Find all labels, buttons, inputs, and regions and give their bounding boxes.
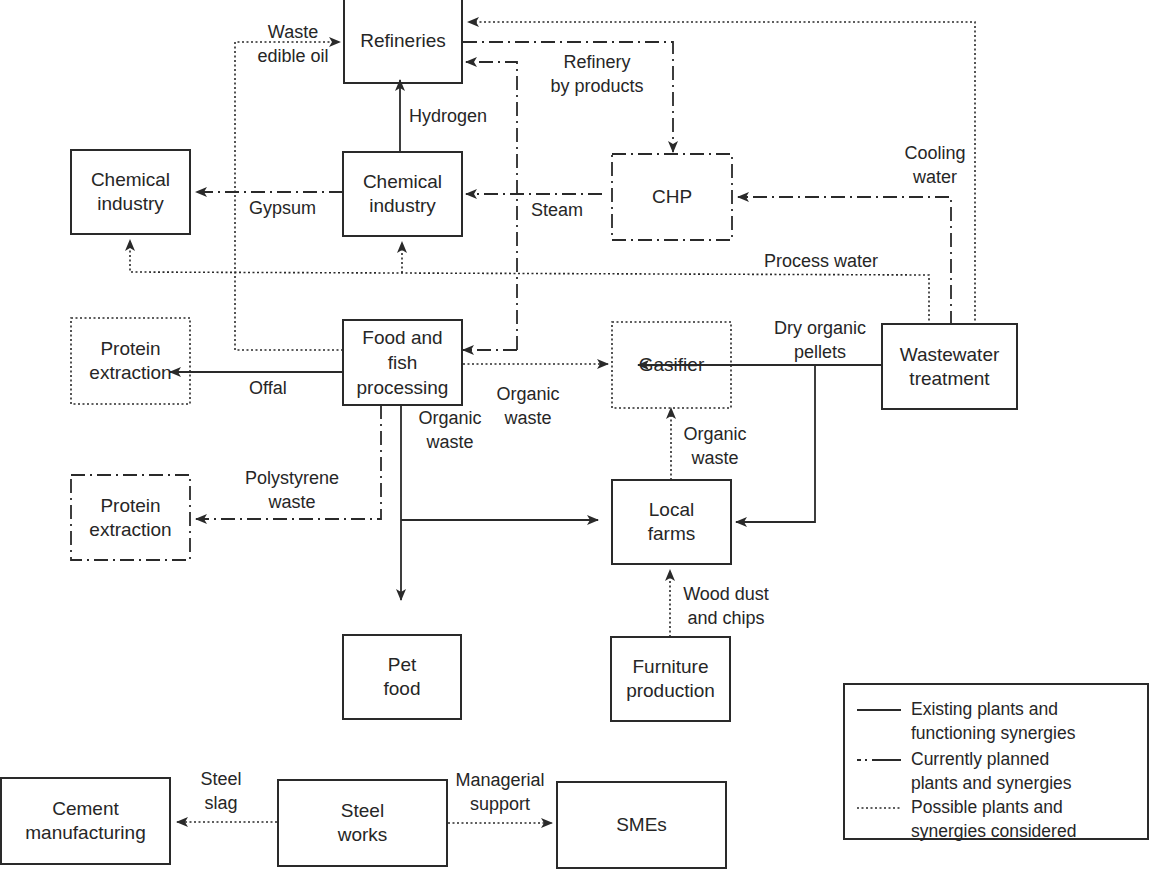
node-local-farms: Localfarms <box>611 479 732 565</box>
flow-label-dry-organic-pellets: Dry organicpellets <box>760 316 880 364</box>
dotted-line-icon <box>857 806 901 810</box>
node-label: Wastewater <box>900 343 1000 367</box>
node-label: SMEs <box>616 813 667 837</box>
planned-flows <box>196 42 951 519</box>
node-label: Food and <box>357 325 449 350</box>
figure-caption-cutoff <box>0 878 700 886</box>
flow-label-farms-organic-waste: Organicwaste <box>675 422 755 470</box>
node-label: extraction <box>89 361 171 385</box>
flow-label-polystyrene-waste: Polystyrenewaste <box>232 466 352 514</box>
node-label: works <box>338 823 388 847</box>
node-gasifier: Gasifier <box>612 322 731 408</box>
node-food-fish-processing: Food andfishprocessing <box>342 319 463 406</box>
node-label: Chemical <box>363 170 442 194</box>
node-label: Cement <box>25 797 145 821</box>
solid-line-icon <box>857 708 901 712</box>
node-refineries: Refineries <box>343 0 463 84</box>
node-pet-food: Petfood <box>342 634 462 720</box>
node-label: Pet <box>384 653 421 677</box>
node-label: Chemical <box>91 168 170 192</box>
node-chp: CHP <box>612 154 732 240</box>
node-label: manufacturing <box>25 821 145 845</box>
node-smes: SMEs <box>556 781 727 869</box>
node-label: CHP <box>652 185 692 209</box>
node-label: processing <box>357 375 449 400</box>
node-label: Gasifier <box>639 353 704 377</box>
flow-label-organic-waste-farms: Organicwaste <box>410 406 490 454</box>
flow-label-waste-edible-oil: Wasteedible oil <box>253 20 333 68</box>
node-furniture-production: Furnitureproduction <box>610 636 731 722</box>
node-label: treatment <box>900 367 1000 391</box>
flow-label-managerial-support: Managerialsupport <box>447 768 553 816</box>
node-steel-works: Steelworks <box>277 779 448 867</box>
node-cement-manufacturing: Cementmanufacturing <box>0 777 171 865</box>
node-label: Protein <box>89 494 171 518</box>
flow-label-process-water: Process water <box>764 249 878 273</box>
legend: Existing plants andfunctioning synergies… <box>843 683 1149 840</box>
node-chemical-industry-center: Chemicalindustry <box>342 151 463 237</box>
dash-dot-line-icon <box>857 758 901 762</box>
flow-label-steam: Steam <box>531 198 583 222</box>
flow-label-offal: Offal <box>249 376 287 400</box>
flow-label-wood-dust: Wood dustand chips <box>676 582 776 630</box>
node-protein-extraction-possible: Proteinextraction <box>71 318 190 404</box>
node-label: fish <box>357 350 449 375</box>
node-label: Local <box>648 498 696 522</box>
node-chemical-industry-left: Chemicalindustry <box>70 149 191 235</box>
flow-label-organic-waste-gasifier: Organicwaste <box>488 382 568 430</box>
node-label: food <box>384 677 421 701</box>
flow-label-cooling-water: Coolingwater <box>895 141 975 189</box>
node-label: Refineries <box>360 29 446 53</box>
node-label: farms <box>648 522 696 546</box>
node-label: extraction <box>89 518 171 542</box>
node-label: industry <box>363 194 442 218</box>
node-label: Furniture <box>626 655 715 679</box>
node-label: Protein <box>89 337 171 361</box>
flow-label-steel-slag: Steelslag <box>196 767 246 815</box>
node-protein-extraction-planned: Proteinextraction <box>71 475 190 560</box>
node-label: production <box>626 679 715 703</box>
flow-label-gypsum: Gypsum <box>249 196 316 220</box>
node-label: industry <box>91 192 170 216</box>
flow-label-refinery-by-products: Refineryby products <box>535 50 659 98</box>
flow-label-hydrogen: Hydrogen <box>409 104 487 128</box>
node-wastewater-treatment: Wastewatertreatment <box>881 323 1018 410</box>
node-label: Steel <box>338 799 388 823</box>
